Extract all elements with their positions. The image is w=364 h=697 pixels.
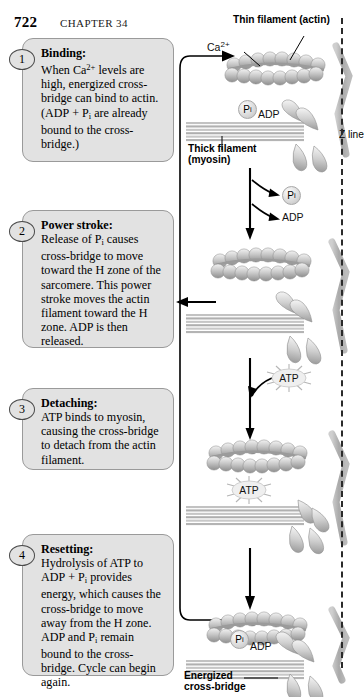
thin-filament-label: Thin filament (actin): [233, 14, 330, 26]
step-title-3: Detaching:: [41, 396, 97, 410]
step-title-1: Binding:: [41, 46, 86, 60]
panel4-adp-label: ADP: [250, 640, 272, 652]
step-number-2: 2: [9, 221, 35, 242]
release-arrows: [246, 168, 281, 240]
page-number: 722: [14, 14, 37, 31]
step-number-1: 1: [9, 49, 35, 70]
step-box-3: 3 Detaching: ATP binds to myosin, causin…: [22, 388, 174, 470]
thick-filament-label-line2: (myosin): [188, 154, 230, 166]
step-text-1: Binding: When Ca2+ levels are high, ener…: [23, 39, 173, 158]
step-box-1: 1 Binding: When Ca2+ levels are high, en…: [22, 38, 174, 162]
atp-bound-label: ATP: [226, 476, 272, 504]
step-text-3: Detaching: ATP binds to myosin, causing …: [23, 389, 173, 474]
panel-2-power-stroke: [176, 242, 346, 365]
step-number-3: 3: [9, 399, 35, 420]
step-box-2: 2 Power stroke: Release of Pi causes cro…: [22, 210, 174, 348]
chapter-label: CHAPTER 34: [60, 17, 128, 29]
step-text-2: Power stroke: Release of Pi causes cross…: [23, 211, 173, 355]
z-line-dashed: [341, 18, 343, 668]
panel1-pi-badge: Pi: [238, 100, 257, 119]
page-header: 722 CHAPTER 34: [0, 14, 190, 34]
step-text-4: Resetting: Hydrolysis of ATP to ADP + Pi…: [23, 535, 173, 697]
released-pi-badge: Pi: [282, 186, 301, 205]
calcium-label: Ca2+: [207, 40, 230, 53]
panel4-pi-badge: Pi: [230, 630, 249, 649]
panel1-adp-label: ADP: [258, 108, 280, 120]
thick-filament-label-line1: Thick filament: [188, 143, 257, 155]
energized-crossbridge-label-line1: Energized: [184, 670, 233, 682]
step-title-2: Power stroke:: [41, 218, 113, 232]
energized-crossbridge-label-line2: cross-bridge: [184, 681, 246, 693]
crossbridge-cycle-diagram: Thin filament (actin) Ca2+ Pi ADP Thick …: [186, 14, 361, 682]
reset-arrow: [245, 548, 255, 610]
step-title-4: Resetting:: [41, 542, 93, 556]
atp-binding-label: ATP: [266, 364, 312, 392]
step-number-4: 4: [9, 545, 35, 566]
released-adp-label: ADP: [282, 211, 304, 223]
step-box-4: 4 Resetting: Hydrolysis of ATP to ADP + …: [22, 534, 174, 676]
